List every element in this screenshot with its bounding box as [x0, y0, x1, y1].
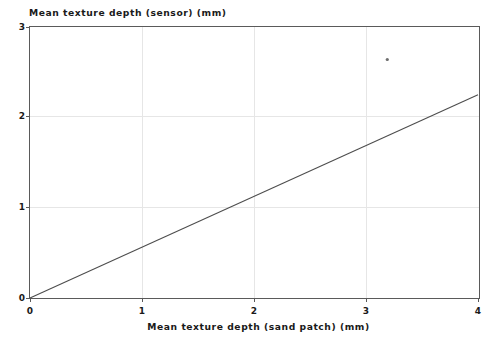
outlier-data-point	[386, 58, 389, 61]
x-tickmark-1	[142, 298, 143, 302]
x-tick-label-4: 4	[475, 306, 481, 316]
y-tick-label-3: 3	[19, 22, 25, 32]
y-tick-label-2: 2	[19, 111, 25, 121]
x-tickmark-4	[478, 298, 479, 302]
plot-area: 0 1 2 3 0 1 2 3 4	[29, 26, 480, 299]
y-tick-label-0: 0	[19, 293, 25, 303]
x-axis-title: Mean texture depth (sand patch) (mm)	[0, 321, 493, 332]
x-tickmark-2	[254, 298, 255, 302]
chart-figure: Mean texture depth (sensor) (mm) 0 1 2 3…	[0, 0, 493, 342]
x-tick-label-2: 2	[251, 306, 257, 316]
y-tick-label-1: 1	[19, 202, 25, 212]
x-tick-label-0: 0	[27, 306, 33, 316]
regression-line	[30, 95, 478, 298]
x-tick-label-1: 1	[139, 306, 145, 316]
x-tickmark-0	[30, 298, 31, 302]
y-axis-title: Mean texture depth (sensor) (mm)	[29, 7, 227, 18]
data-layer	[30, 27, 479, 298]
x-tickmark-3	[366, 298, 367, 302]
x-tick-label-3: 3	[363, 306, 369, 316]
